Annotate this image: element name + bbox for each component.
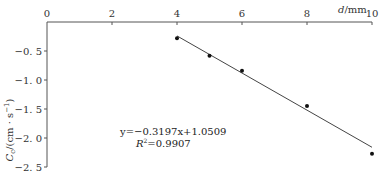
data-point: [208, 54, 212, 58]
y-tick-label: −1. 0: [15, 75, 42, 86]
r2-label: R2=0.9907: [135, 137, 191, 149]
y-tick-label: −2. 0: [15, 133, 42, 144]
equation-label: y=−0.3197x+1.0509: [119, 126, 226, 137]
data-point: [175, 36, 179, 40]
x-tick-label: 2: [109, 8, 115, 19]
x-tick-label: 10: [366, 8, 379, 19]
data-point: [240, 69, 244, 73]
x-tick-label: 4: [174, 8, 180, 19]
x-tick-label: 0: [44, 8, 50, 19]
chart: 0246810 −0. 5−1. 0−1. 5−2. 0−2. 5 d/mm C…: [0, 0, 383, 180]
y-tick-label: −2. 5: [15, 162, 42, 173]
data-points: [175, 36, 374, 155]
data-point: [305, 104, 309, 108]
x-tick-label: 8: [304, 8, 310, 19]
x-tick-label: 6: [239, 8, 245, 19]
y-tick-label: −0. 5: [15, 46, 42, 57]
y-tick-label: −1. 5: [15, 104, 42, 115]
data-point: [370, 152, 374, 156]
x-axis-label: d/mm: [338, 4, 367, 15]
y-ticks: −0. 5−1. 0−1. 5−2. 0−2. 5: [15, 46, 47, 173]
